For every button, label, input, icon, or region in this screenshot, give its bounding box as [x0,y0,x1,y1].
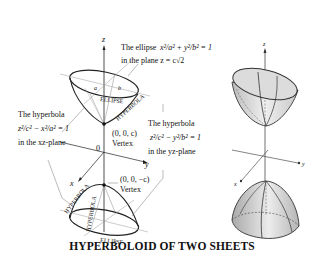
right-lower-sheet [232,181,299,239]
ellipse-annotation-line1: The ellipse [121,43,157,52]
diagram-canvas: z y x 0 a b ELLIPSE HYPERBOLA [0,0,324,260]
ellipse-annotation-eq: x²/a² + y²/b² = 1 [159,43,212,52]
hyperbola-yz-line2: in the yz-plane [148,147,196,156]
leader-xz-bottom [48,160,70,204]
upper-sheet: a b ELLIPSE HYPERBOLA [60,58,150,126]
vertex-top-point [102,122,106,126]
vertex-bottom-point [102,183,106,187]
vertex-top-label: Vertex [112,139,133,148]
x-axis-label: x [69,179,74,188]
x-axis-arrow-icon [78,177,82,182]
leader-ellipse [128,64,138,76]
hyperbola-xz-line1: The hyperbola [18,110,65,119]
right-z-axis-label: z [262,41,266,47]
hyperbola-yz-eq: z²/c² − y²/b² = 1 [149,133,201,142]
hyperbola-xz-line2: in the xz-plane [18,138,66,147]
right-upper-sheet [230,62,301,126]
y-axis-label: y [144,160,149,169]
right-z-axis-arrow-icon [264,48,267,53]
right-y-axis-label: y [301,161,305,167]
a-label: a [94,85,97,91]
z-axis-label: z [101,35,106,44]
right-figure: z y x [230,41,305,239]
right-x-axis-label: x [233,181,237,187]
ellipse-top-label: ELLIPSE [100,96,124,104]
vertex-bottom-label: Vertex [120,185,141,194]
right-y-axis-arrow-icon [298,162,300,164]
right-x-axis-arrow-icon [240,180,242,182]
figure-caption: HYPERBOLOID OF TWO SHEETS [0,240,324,252]
hyperbola-yz-line1: The hyperbola [148,119,195,128]
hyperbola-xz-eq: z²/c² − x²/a² = 1 [17,124,69,133]
vertex-bottom-coord: (0, 0, −c) [120,175,150,184]
b-label: b [118,85,121,91]
ellipse-annotation-line2: in the plane z = c√2 [121,56,184,65]
x-axis-line [80,152,104,180]
origin-label: 0 [96,144,100,153]
z-axis-arrow-icon [103,45,106,50]
vertex-top-coord: (0, 0, c) [112,129,137,138]
left-figure: z y x 0 a b ELLIPSE HYPERBOLA [17,35,212,245]
